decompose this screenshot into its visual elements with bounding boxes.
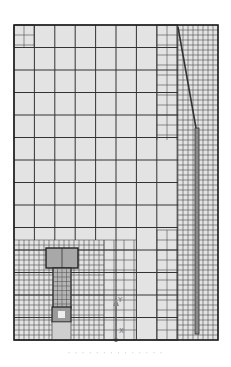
mesh-diagram (0, 0, 231, 367)
axis-label-x: X (119, 327, 124, 335)
figure-caption: · · · · · · · · · · · · · · (0, 349, 231, 358)
axis-label-y: Y (118, 296, 122, 304)
